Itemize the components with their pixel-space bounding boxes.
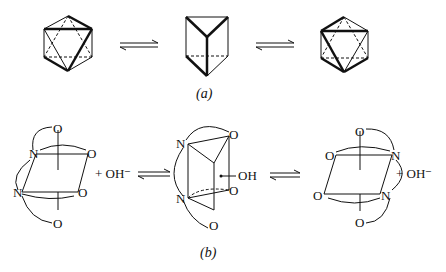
diagram-canvas: O N O N O O + OH⁻ N O OH O N O <box>0 0 446 272</box>
atom-o: O <box>87 146 96 161</box>
complex-right <box>324 129 402 223</box>
atom-o: O <box>313 188 322 203</box>
atom-o: O <box>325 148 334 163</box>
atom-n: N <box>176 136 186 151</box>
atom-n: N <box>391 148 401 163</box>
panel-label-b: (b) <box>200 245 216 261</box>
trigonal-prism <box>186 17 228 76</box>
complex-left <box>16 127 88 223</box>
atom-n: N <box>13 185 23 200</box>
octahedron-left <box>44 16 92 71</box>
product-hydroxide: + OH⁻ <box>396 166 432 181</box>
atom-o: O <box>229 183 238 198</box>
equilibrium-arrow <box>138 169 170 179</box>
reagent-hydroxide: + OH⁻ <box>95 166 131 181</box>
panel-label-a: (a) <box>196 86 212 102</box>
equilibrium-arrow <box>256 40 294 50</box>
atom-o: O <box>53 121 62 136</box>
atom-n: N <box>29 146 39 161</box>
substituent-oh: OH <box>238 168 257 183</box>
atom-n: N <box>176 191 186 206</box>
atom-o: O <box>355 124 364 139</box>
atom-o: O <box>209 218 218 233</box>
atom-o: O <box>78 185 87 200</box>
atom-o: O <box>355 215 364 230</box>
atom-o: O <box>53 216 62 231</box>
equilibrium-arrow <box>120 40 158 50</box>
atom-n: N <box>381 188 391 203</box>
atom-o: O <box>229 127 238 142</box>
equilibrium-arrow <box>270 170 300 180</box>
octahedron-right <box>321 17 368 72</box>
